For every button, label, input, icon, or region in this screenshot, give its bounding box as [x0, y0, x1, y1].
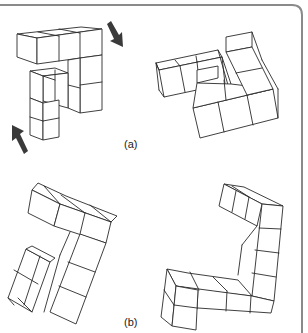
panel-label-b: (b) [124, 316, 137, 328]
figure-a-left [17, 27, 102, 140]
rotation-arrow-down-right-icon [107, 21, 123, 47]
rotation-arrow-up-left-icon [12, 125, 28, 154]
diagram-canvas [0, 0, 308, 333]
panel-label-a: (a) [124, 138, 137, 150]
figure-b-right [161, 184, 283, 330]
figure-a-right [156, 32, 278, 138]
figure-b-left [8, 183, 117, 324]
